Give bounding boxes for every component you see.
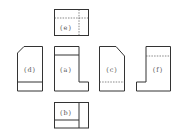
view-label-c: (c) xyxy=(106,66,118,74)
view-b: (b) xyxy=(55,103,89,129)
view-label-a: (a) xyxy=(60,66,72,74)
orthographic-diagram: (e) (d) (a) (c) (f) (b) xyxy=(0,0,181,133)
view-a: (a) xyxy=(55,47,89,92)
view-label-d: (d) xyxy=(24,66,36,74)
view-label-e: (e) xyxy=(60,24,72,32)
view-d: (d) xyxy=(18,47,43,92)
view-f: (f) xyxy=(137,47,171,92)
view-label-b: (b) xyxy=(60,109,72,117)
view-label-f: (f) xyxy=(153,66,163,74)
view-e: (e) xyxy=(55,10,89,36)
view-c: (c) xyxy=(100,47,125,92)
